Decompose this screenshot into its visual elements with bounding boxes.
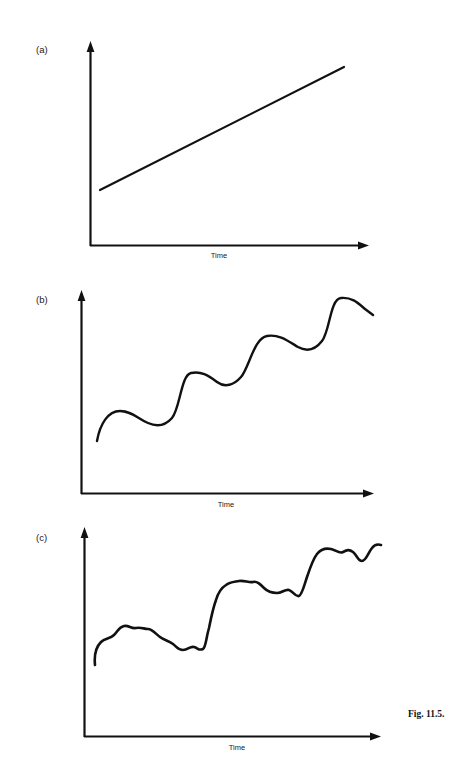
figure-root: (a) Time (b) Time (c) [0,0,455,781]
figure-canvas: (a) Time (b) Time (c) [0,0,455,781]
panel-b-wave-line [97,298,373,441]
panel-b-y-axis-arrowhead [78,290,86,301]
panel-c-label: (c) [36,532,47,543]
panel-b: (b) Time [36,290,374,509]
panel-a-x-axis-label: Time [211,251,227,260]
panel-b-x-axis-arrowhead [363,490,374,498]
panel-b-x-axis-label: Time [218,500,234,509]
panel-a: (a) Time [36,41,369,260]
panel-c-x-axis-arrowhead [370,733,381,741]
panel-c: (c) Time [36,527,381,752]
panel-c-noisy-line [95,544,381,665]
panel-a-y-axis-arrowhead [87,41,95,52]
panel-a-trend-line [100,67,344,190]
panel-a-label: (a) [36,44,48,55]
panel-a-x-axis-arrowhead [358,242,369,250]
panel-c-x-axis-label: Time [229,743,245,752]
panel-b-label: (b) [36,294,48,305]
panel-c-y-axis-arrowhead [81,527,89,538]
figure-caption: Fig. 11.5. [408,709,444,719]
